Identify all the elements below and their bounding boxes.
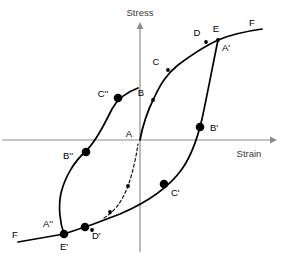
stress-strain-hysteresis-figure: Stress Strain A B C D E F A' B' C' D' E'… bbox=[0, 0, 284, 259]
lower-branch-to-F-curve bbox=[18, 234, 64, 242]
point-marker-D bbox=[204, 40, 208, 44]
point-label-E-prime: E' bbox=[60, 241, 68, 252]
point-marker-E bbox=[216, 38, 220, 42]
initial-dashed-curve bbox=[104, 144, 138, 218]
point-marker-B bbox=[151, 98, 155, 102]
point-label-F-lower: F bbox=[12, 229, 18, 240]
point-marker-B-double-prime bbox=[82, 148, 91, 157]
point-markers-big bbox=[60, 94, 205, 239]
point-label-A-double-prime: A'' bbox=[43, 218, 53, 229]
point-marker-dashed-lower bbox=[108, 210, 112, 214]
point-label-C-prime: C' bbox=[171, 187, 180, 198]
point-label-A: A bbox=[126, 128, 133, 139]
point-label-D-prime: D' bbox=[92, 230, 101, 241]
point-label-B-prime: B' bbox=[210, 122, 218, 133]
point-marker-C-double-prime bbox=[114, 94, 123, 103]
point-label-C: C bbox=[153, 56, 160, 67]
point-label-C-double-prime: C'' bbox=[98, 88, 109, 99]
point-label-E: E bbox=[213, 23, 219, 34]
point-marker-D-prime bbox=[81, 223, 90, 232]
point-label-D: D bbox=[194, 27, 201, 38]
point-marker-C bbox=[166, 68, 170, 72]
point-label-F-upper: F bbox=[249, 17, 255, 28]
point-markers-small bbox=[90, 38, 220, 232]
point-marker-B-prime bbox=[196, 123, 205, 132]
point-marker-E-prime bbox=[60, 230, 69, 239]
y-axis-label: Stress bbox=[127, 7, 154, 18]
point-label-A-prime: A' bbox=[222, 42, 230, 53]
x-axis-arrow-icon bbox=[270, 137, 277, 144]
x-axis-label: Strain bbox=[237, 148, 262, 159]
y-axis-arrow-icon bbox=[137, 22, 144, 29]
point-marker-dashed-upper bbox=[126, 184, 130, 188]
point-marker-C-prime bbox=[160, 180, 169, 189]
point-label-B: B bbox=[138, 87, 144, 98]
point-label-B-double-prime: B'' bbox=[63, 150, 73, 161]
